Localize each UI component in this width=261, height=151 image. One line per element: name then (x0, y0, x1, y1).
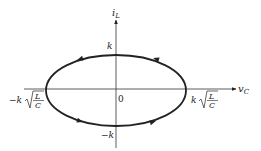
right-intercept-label: k L C (191, 91, 218, 110)
svg-text:−k: −k (9, 95, 22, 105)
bottom-intercept-label: −k (101, 130, 114, 140)
svg-text:L: L (208, 92, 214, 101)
x-axis-label: vC (238, 83, 250, 96)
svg-text:C: C (35, 101, 41, 110)
svg-text:k: k (191, 95, 196, 105)
svg-text:L: L (34, 92, 40, 101)
left-intercept-label: −k L C (9, 91, 44, 110)
svg-text:C: C (209, 101, 215, 110)
phase-plane-diagram: iL vC 0 k −k −k L C k L C (0, 0, 261, 151)
top-intercept-label: k (107, 41, 112, 51)
y-axis-label: iL (112, 7, 120, 20)
origin-label: 0 (118, 94, 124, 104)
